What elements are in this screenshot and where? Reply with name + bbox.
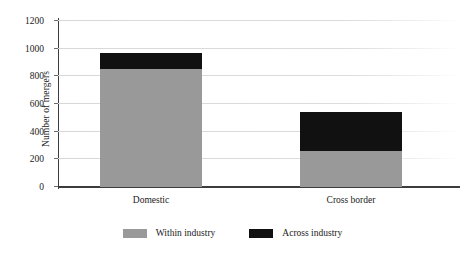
y-tick-label: 200: [30, 154, 44, 164]
bar-segment-within-industry[interactable]: [100, 69, 202, 187]
bar-segment-within-industry[interactable]: [300, 151, 402, 187]
legend-swatch-across: [249, 229, 273, 238]
y-tick-mark: [54, 48, 58, 49]
gridline: [58, 20, 460, 21]
y-tick-label: 1000: [25, 44, 44, 54]
x-tick-label: Cross border: [271, 195, 431, 205]
y-tick-label: 400: [30, 127, 44, 137]
bar-cross-border[interactable]: Cross border: [300, 112, 402, 187]
gridline: [58, 48, 460, 49]
y-tick-mark: [54, 20, 58, 21]
plot-area: 020040060080010001200 DomesticCross bord…: [58, 21, 460, 187]
legend-item[interactable]: Within industry: [123, 228, 216, 238]
y-tick-mark: [54, 186, 58, 187]
legend-item[interactable]: Across industry: [249, 228, 342, 238]
y-tick-mark: [54, 75, 58, 76]
y-tick-label: 600: [30, 99, 44, 109]
bar-segment-across-industry[interactable]: [100, 53, 202, 69]
y-tick-mark: [54, 103, 58, 104]
legend-swatch-within: [123, 229, 147, 238]
y-tick-label: 800: [30, 71, 44, 81]
y-tick-mark: [54, 131, 58, 132]
y-tick-label: 0: [39, 182, 44, 192]
bar-domestic[interactable]: Domestic: [100, 53, 202, 187]
chart-figure: Number of mergers 020040060080010001200 …: [0, 0, 465, 260]
legend-label: Within industry: [156, 228, 216, 238]
x-tick-label: Domestic: [71, 195, 231, 205]
y-tick-mark: [54, 158, 58, 159]
y-tick-label: 1200: [25, 16, 44, 26]
bar-segment-across-industry[interactable]: [300, 112, 402, 151]
chart-legend: Within industryAcross industry: [0, 228, 465, 238]
legend-label: Across industry: [282, 228, 342, 238]
